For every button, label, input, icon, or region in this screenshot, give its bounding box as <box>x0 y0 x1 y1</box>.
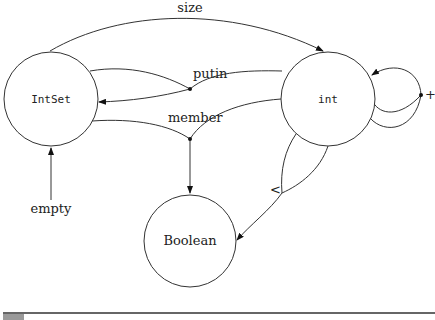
edge-putin: putin <box>90 66 282 102</box>
edge-plus: + <box>370 68 435 127</box>
node-int: int <box>281 52 375 146</box>
junction-member <box>188 137 192 141</box>
label-less: < <box>270 182 281 197</box>
edge-empty: empty <box>31 148 73 216</box>
edge-less: < <box>237 134 328 240</box>
junction-plus <box>419 93 423 97</box>
label-plus: + <box>425 87 435 102</box>
node-boolean: Boolean <box>144 195 236 287</box>
junction-putin <box>188 87 192 91</box>
node-intset: IntSet <box>4 52 98 146</box>
edge-size: size <box>50 0 323 51</box>
label-size: size <box>177 0 203 15</box>
node-label-intset: IntSet <box>31 93 71 106</box>
label-putin: putin <box>193 66 228 81</box>
edge-member: member <box>92 99 281 193</box>
node-label-int: int <box>318 93 338 106</box>
footer-gray-box <box>3 314 24 320</box>
label-empty: empty <box>31 201 73 216</box>
signature-diagram: size putin member empty < + Int <box>0 0 435 320</box>
node-label-boolean: Boolean <box>163 233 217 248</box>
label-member: member <box>168 110 223 125</box>
